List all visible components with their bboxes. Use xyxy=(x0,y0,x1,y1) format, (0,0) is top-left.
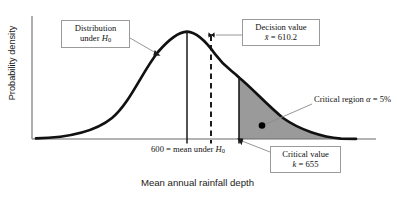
callout-distribution-under-h0: Distribution under H0 xyxy=(61,20,130,48)
callout-critical-value: Critical value k = 655 xyxy=(270,146,341,173)
x-axis-title: Mean annual rainfall depth xyxy=(0,177,395,188)
callout-distribution-line2: under H0 xyxy=(66,33,125,44)
callout-critical-value-line1: Critical value xyxy=(282,149,329,159)
callout-decision-value: Decision value x̄ = 610.2 xyxy=(242,19,320,46)
callout-decision-line1: Decision value xyxy=(255,22,306,32)
critical-value-number: = 655 xyxy=(296,159,318,169)
label-critical-region-line1: Critical region xyxy=(314,94,364,104)
alpha-value: = 5% xyxy=(371,94,392,104)
hypothesis-test-figure: Distribution under H0 Decision value x̄ … xyxy=(0,0,395,199)
distribution-leader-line xyxy=(130,38,161,56)
h-subscript-mean: 0 xyxy=(222,147,225,154)
label-critical-region-line2: α = 5% xyxy=(366,94,391,104)
critical-region-shading xyxy=(239,78,341,140)
callout-decision-line2: x̄ = 610.2 xyxy=(247,32,315,42)
critical-region-marker-dot xyxy=(259,122,266,129)
callout-distribution-line1: Distribution xyxy=(75,23,117,33)
h-subscript: 0 xyxy=(108,37,111,44)
label-mean-line1: 600 = mean xyxy=(151,144,192,154)
critical-value-leader-line xyxy=(237,138,270,152)
label-mean-line2: under H0 xyxy=(194,144,225,154)
decision-value-number: = 610.2 xyxy=(269,32,297,42)
callout-critical-value-line2: k = 655 xyxy=(275,159,336,169)
label-mean-under-h0: 600 = mean under H0 xyxy=(137,144,239,155)
label-critical-region: Critical region α = 5% xyxy=(314,94,391,104)
y-axis-title: Probability density xyxy=(7,7,17,119)
